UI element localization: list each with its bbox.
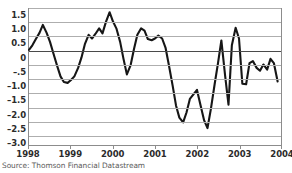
source-note: Source: Thomson Financial Datastream (2, 161, 145, 170)
gridline (29, 108, 281, 109)
y-axis-tick-label: 0.5 (0, 39, 26, 48)
x-axis-tick-label: 1999 (53, 149, 87, 159)
y-axis-labels: 1.51.00.50–.5–1.0–1.5–2.0–2.5–3.0 (0, 8, 26, 146)
x-axis-tick-label: 2003 (223, 149, 257, 159)
plot-area (28, 8, 282, 146)
gridline (29, 136, 281, 137)
x-axis-tick-label: 2004 (265, 149, 292, 159)
chart-figure: 1.51.00.50–.5–1.0–1.5–2.0–2.5–3.0 199819… (0, 0, 292, 173)
x-axis-tick-label: 1998 (11, 149, 45, 159)
gridline (29, 79, 281, 80)
y-axis-tick-label: –2.5 (0, 125, 26, 134)
gridline (29, 122, 281, 123)
y-axis-tick-label: –.5 (0, 68, 26, 77)
x-axis-tick-label: 2001 (138, 149, 172, 159)
gridline (29, 93, 281, 94)
x-axis-labels: 1998199920002001200220032004 (28, 146, 282, 162)
x-axis-tick-label: 2002 (180, 149, 214, 159)
line-series-1 (29, 12, 278, 128)
gridline (29, 8, 281, 9)
y-axis-tick-label: –3.0 (0, 139, 26, 148)
gridline (29, 65, 281, 66)
gridline (29, 22, 281, 23)
y-axis-tick-label: 1.5 (0, 11, 26, 20)
series-canvas (29, 8, 281, 145)
y-axis-tick-label: 0 (0, 54, 26, 63)
gridline (29, 36, 281, 37)
zero-line (29, 51, 281, 53)
x-axis-tick-label: 2000 (96, 149, 130, 159)
y-axis-tick-label: –1.0 (0, 82, 26, 91)
y-axis-tick-label: 1.0 (0, 25, 26, 34)
y-axis-tick-label: –1.5 (0, 96, 26, 105)
y-axis-tick-label: –2.0 (0, 111, 26, 120)
